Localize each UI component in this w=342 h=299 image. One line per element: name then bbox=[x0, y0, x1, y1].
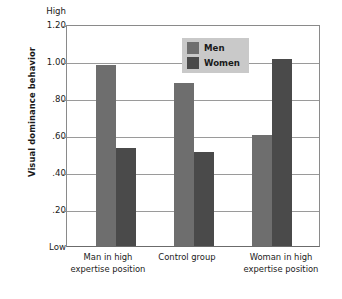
y-axis-title: Visual dominance behavior bbox=[27, 17, 37, 207]
y-tick-label-0.20: .20 bbox=[6, 205, 66, 215]
legend-item-women: Women bbox=[187, 57, 240, 69]
x-category-line1: Woman in high bbox=[230, 252, 332, 264]
y-tick-label-1.00: 1.00 bbox=[6, 57, 66, 67]
legend-swatch-men-icon bbox=[187, 42, 199, 54]
y-tick-label-0.60: .60 bbox=[6, 131, 66, 141]
bar-women-woman-in-high-expertise-position bbox=[272, 59, 292, 246]
bar-women-man-in-high-expertise-position bbox=[116, 148, 136, 246]
x-category-line2: expertise position bbox=[230, 264, 332, 276]
bar-men-man-in-high-expertise-position bbox=[96, 65, 116, 246]
x-category-label-woman-in-high-expertise-position: Woman in high expertise position bbox=[230, 252, 332, 275]
bar-group-man-in-high-expertise-position bbox=[77, 26, 155, 246]
legend-label-women: Women bbox=[204, 58, 240, 68]
legend: Men Women bbox=[182, 38, 249, 73]
y-axis-low-label: Low bbox=[6, 242, 66, 252]
y-tick-label-0.80: .80 bbox=[6, 94, 66, 104]
x-category-line1: Man in high bbox=[62, 252, 154, 264]
x-category-line2: expertise position bbox=[62, 264, 154, 276]
legend-item-men: Men bbox=[187, 42, 240, 54]
bar-chart: Visual dominance behavior High Low 1.20 … bbox=[0, 0, 342, 299]
bar-men-control-group bbox=[174, 83, 194, 246]
x-category-label-man-in-high-expertise-position: Man in high expertise position bbox=[62, 252, 154, 275]
y-axis-high-label: High bbox=[6, 6, 66, 16]
bar-women-control-group bbox=[194, 152, 214, 246]
x-category-label-control-group: Control group bbox=[142, 252, 232, 264]
y-tick-label-1.20: 1.20 bbox=[6, 20, 66, 30]
legend-label-men: Men bbox=[204, 43, 225, 53]
legend-swatch-women-icon bbox=[187, 57, 199, 69]
bar-men-woman-in-high-expertise-position bbox=[252, 135, 272, 246]
y-tick-label-0.40: .40 bbox=[6, 168, 66, 178]
x-category-line1: Control group bbox=[142, 252, 232, 264]
